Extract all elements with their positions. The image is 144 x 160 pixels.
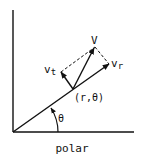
label-vt: vt bbox=[44, 63, 56, 77]
angle-arc-arrow bbox=[51, 108, 58, 132]
caption-polar: polar bbox=[55, 142, 88, 155]
label-vr: vr bbox=[111, 57, 124, 71]
polar-velocity-diagram: V vt vr (r,θ) θ polar bbox=[0, 0, 144, 160]
label-theta: θ bbox=[58, 113, 64, 124]
label-vr-sub: r bbox=[118, 61, 124, 71]
dashed-line-vt-to-v bbox=[61, 47, 95, 72]
label-vt-sub: t bbox=[51, 67, 56, 77]
label-v: V bbox=[91, 34, 98, 47]
label-point-r-theta: (r,θ) bbox=[74, 92, 104, 103]
dashed-line-v-to-vr bbox=[95, 47, 109, 64]
tangential-vt-arrow bbox=[61, 72, 73, 89]
